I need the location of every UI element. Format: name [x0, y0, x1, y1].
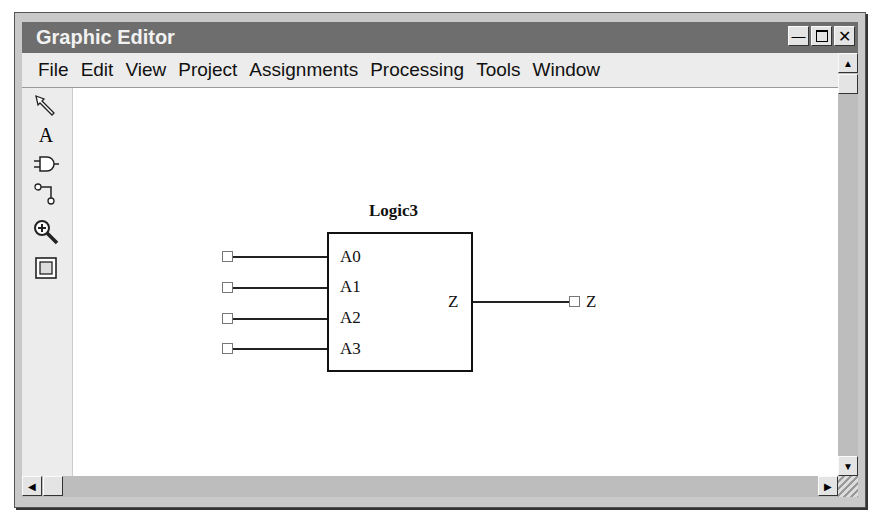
port-label-a1: A1	[340, 277, 361, 297]
vertical-scroll-thumb[interactable]	[838, 74, 858, 94]
port-label-a3: A3	[340, 339, 361, 359]
menu-tools[interactable]: Tools	[476, 59, 520, 81]
port-label-a0: A0	[340, 247, 361, 267]
selection-tool-button[interactable]	[30, 92, 62, 120]
horizontal-scroll-thumb[interactable]	[43, 476, 63, 496]
wire-a1[interactable]	[233, 287, 327, 289]
symbol-tool-button[interactable]	[30, 150, 62, 178]
close-button[interactable]: ✕	[834, 26, 855, 46]
tool-palette: A	[22, 88, 73, 476]
maximize-button[interactable]	[811, 26, 832, 46]
menu-bar: File Edit View Project Assignments Proce…	[22, 53, 838, 88]
output-pin-z[interactable]	[569, 296, 580, 307]
arrow-right-icon: ▶	[824, 481, 832, 492]
port-label-a2: A2	[340, 308, 361, 328]
menu-window[interactable]: Window	[533, 59, 601, 81]
and-gate-icon	[32, 154, 60, 174]
input-pin-a1[interactable]	[222, 282, 233, 293]
text-tool-button[interactable]: A	[30, 121, 62, 149]
zoom-in-icon	[32, 218, 60, 246]
horizontal-scrollbar[interactable]: ◀ ▶	[22, 476, 838, 497]
scroll-right-button[interactable]: ▶	[818, 476, 838, 496]
wire-tool-button[interactable]	[30, 180, 62, 208]
maximize-icon	[816, 30, 828, 42]
title-bar[interactable]: Graphic Editor — ✕	[22, 22, 858, 53]
arrow-up-icon: ▲	[843, 58, 853, 69]
wire-a0[interactable]	[233, 256, 327, 258]
schematic-canvas[interactable]: Logic3 A0 A1 A2 A3 Z Z	[73, 88, 838, 476]
menu-assignments[interactable]: Assignments	[249, 59, 358, 81]
port-label-z: Z	[448, 292, 458, 312]
arrow-left-icon: ◀	[28, 481, 36, 492]
full-screen-icon	[34, 256, 58, 280]
scroll-left-button[interactable]: ◀	[22, 476, 42, 496]
vertical-scrollbar[interactable]: ▲ ▼	[838, 53, 858, 476]
arrow-pointer-icon	[34, 94, 58, 118]
wire-a3[interactable]	[233, 348, 327, 350]
full-screen-tool-button[interactable]	[30, 254, 62, 282]
text-icon: A	[39, 124, 53, 147]
scroll-up-button[interactable]: ▲	[838, 53, 858, 73]
minimize-button[interactable]: —	[788, 26, 809, 46]
menu-view[interactable]: View	[125, 59, 166, 81]
menu-processing[interactable]: Processing	[370, 59, 464, 81]
block-name-label: Logic3	[369, 201, 418, 221]
window-title: Graphic Editor	[36, 26, 175, 49]
close-icon: ✕	[838, 27, 851, 46]
menu-file[interactable]: File	[38, 59, 69, 81]
zoom-tool-button[interactable]	[30, 218, 62, 246]
resize-grip[interactable]	[838, 476, 858, 497]
input-pin-a3[interactable]	[222, 343, 233, 354]
orthogonal-wire-icon	[33, 181, 59, 207]
input-pin-a2[interactable]	[222, 313, 233, 324]
scroll-down-button[interactable]: ▼	[838, 456, 858, 476]
menu-edit[interactable]: Edit	[81, 59, 114, 81]
arrow-down-icon: ▼	[843, 461, 853, 472]
input-pin-a0[interactable]	[222, 251, 233, 262]
wire-z[interactable]	[473, 301, 569, 303]
menu-project[interactable]: Project	[178, 59, 237, 81]
output-pin-label: Z	[586, 292, 596, 312]
minimize-icon: —	[792, 28, 806, 44]
graphic-editor-window: Graphic Editor — ✕ File Edit View Projec…	[14, 12, 866, 508]
wire-a2[interactable]	[233, 318, 327, 320]
